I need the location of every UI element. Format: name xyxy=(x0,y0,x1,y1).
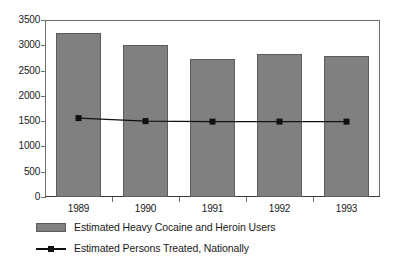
y-tick-mark xyxy=(41,197,46,198)
legend-item-line: Estimated Persons Treated, Nationally xyxy=(36,240,376,261)
y-tick-mark xyxy=(41,45,46,46)
y-tick-mark xyxy=(41,172,46,173)
x-tick-label-1991: 1991 xyxy=(183,203,243,215)
y-tick-label: 2000 xyxy=(0,91,40,101)
bar-1993 xyxy=(324,56,369,197)
chart-legend: Estimated Heavy Cocaine and Heroin Users… xyxy=(36,219,376,261)
bar-1989 xyxy=(56,33,101,197)
x-tick-label-1989: 1989 xyxy=(49,203,109,215)
legend-item-bar: Estimated Heavy Cocaine and Heroin Users xyxy=(36,219,376,240)
y-tick-label: 1000 xyxy=(0,141,40,151)
bar-1991 xyxy=(190,59,235,197)
y-tick-mark xyxy=(41,121,46,122)
y-tick-label: 1500 xyxy=(0,116,40,126)
y-axis: 0500100015002000250030003500 xyxy=(0,0,40,217)
y-tick-mark xyxy=(41,146,46,147)
y-tick-mark xyxy=(41,71,46,72)
bar-swatch-icon xyxy=(36,223,66,232)
y-tick-label: 0 xyxy=(0,192,40,202)
x-tick-label-1993: 1993 xyxy=(317,203,377,215)
chart-container: 0500100015002000250030003500 19891990199… xyxy=(0,0,397,267)
y-tick-label: 3500 xyxy=(0,15,40,25)
legend-label-line: Estimated Persons Treated, Nationally xyxy=(74,241,249,255)
line-swatch-icon xyxy=(36,248,66,250)
y-tick-mark xyxy=(41,20,46,21)
x-tick-mark xyxy=(112,197,113,202)
bar-1990 xyxy=(123,45,168,197)
x-tick-mark xyxy=(246,197,247,202)
x-tick-label-1990: 1990 xyxy=(116,203,176,215)
x-tick-mark xyxy=(313,197,314,202)
bar-1992 xyxy=(257,54,302,197)
y-tick-label: 3000 xyxy=(0,40,40,50)
legend-label-bar: Estimated Heavy Cocaine and Heroin Users xyxy=(74,220,275,234)
x-tick-mark xyxy=(179,197,180,202)
y-tick-label: 500 xyxy=(0,167,40,177)
x-tick-label-1992: 1992 xyxy=(250,203,310,215)
y-tick-label: 2500 xyxy=(0,66,40,76)
y-tick-mark xyxy=(41,96,46,97)
